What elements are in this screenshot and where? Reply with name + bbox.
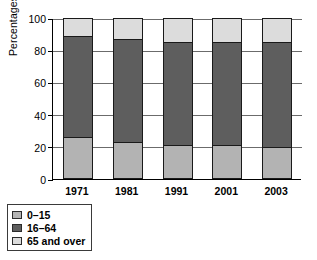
y-axis-tick: [48, 19, 53, 20]
bar-stack: [262, 18, 292, 179]
bar-segment: [114, 40, 142, 143]
y-axis-tick: [48, 51, 53, 52]
bar-segment: [263, 43, 291, 148]
legend: 0–1516–6465 and over: [7, 204, 92, 251]
bar-segment: [263, 148, 291, 178]
bar-segment: [213, 19, 241, 43]
legend-swatch: [12, 224, 22, 232]
y-axis-tick-label: 60: [34, 78, 46, 89]
bar-segment: [114, 19, 142, 40]
legend-label: 65 and over: [27, 235, 85, 247]
chart-figure: Percentages 020406080100 197119811991200…: [0, 0, 317, 260]
bar-segment: [164, 43, 192, 146]
y-axis-tick: [48, 83, 53, 84]
legend-label: 16–64: [27, 222, 56, 234]
y-axis-tick-label: 80: [34, 46, 46, 57]
legend-swatch: [12, 211, 22, 219]
x-axis-tick-label: 2003: [246, 185, 306, 197]
bar-stack: [212, 18, 242, 179]
y-axis-title: Percentages: [7, 0, 19, 56]
y-axis-tick: [48, 180, 53, 181]
bar-stack: [163, 18, 193, 179]
bar-segment: [64, 37, 92, 139]
y-axis-tick: [48, 147, 53, 148]
y-axis-tick-label: 0: [40, 175, 46, 186]
bar-segment: [263, 19, 291, 43]
y-axis-tick-label: 100: [28, 14, 46, 25]
bar-segment: [64, 19, 92, 37]
legend-swatch: [12, 237, 22, 245]
legend-label: 0–15: [27, 209, 50, 221]
y-axis-tick-label: 40: [34, 110, 46, 121]
bar-segment: [64, 138, 92, 178]
plot-area: 020406080100: [52, 19, 301, 180]
bar-stack: [63, 18, 93, 179]
y-axis-title-container: Percentages: [8, 10, 22, 180]
y-axis-tick-label: 20: [34, 143, 46, 154]
bar-segment: [213, 146, 241, 178]
legend-item: 65 and over: [12, 234, 85, 247]
bar-segment: [213, 43, 241, 146]
legend-item: 16–64: [12, 221, 85, 234]
bar-segment: [114, 143, 142, 178]
bar-segment: [164, 19, 192, 43]
y-axis-tick: [48, 115, 53, 116]
bar-stack: [113, 18, 143, 179]
bar-segment: [164, 146, 192, 178]
legend-item: 0–15: [12, 208, 85, 221]
